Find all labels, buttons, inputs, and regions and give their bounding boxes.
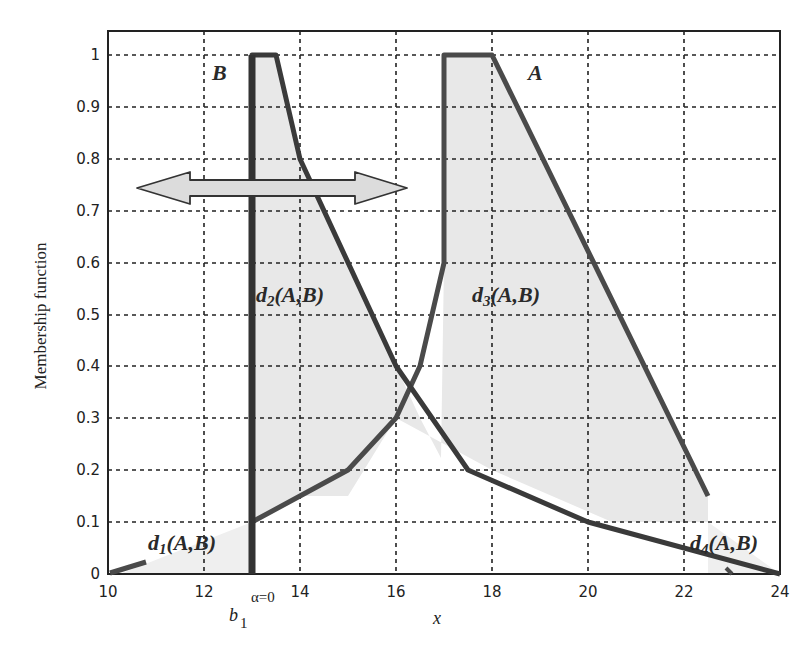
shaded-area xyxy=(120,55,780,574)
svg-text:d1(A,B): d1(A,B) xyxy=(148,530,216,557)
x-axis-ticks: 10 12 14 16 18 20 22 24 xyxy=(98,583,789,601)
svg-text:0.1: 0.1 xyxy=(76,513,100,531)
svg-text:0.8: 0.8 xyxy=(76,150,100,168)
y-axis-label: Membership function xyxy=(31,242,50,389)
y-axis-ticks: 0 0.1 0.2 0.3 0.4 0.5 0.6 0.7 0.8 0.9 1 xyxy=(76,46,100,583)
svg-text:16: 16 xyxy=(386,583,405,601)
curve-b-label: B xyxy=(211,60,227,85)
svg-text:14: 14 xyxy=(290,583,309,601)
svg-text:1: 1 xyxy=(240,615,248,631)
svg-text:20: 20 xyxy=(578,583,597,601)
svg-text:0.9: 0.9 xyxy=(76,98,100,116)
svg-text:12: 12 xyxy=(194,583,213,601)
d1-label: d1(A,B) xyxy=(148,530,216,557)
d4-label: d4(A,B) xyxy=(690,530,758,557)
svg-text:0.5: 0.5 xyxy=(76,306,100,324)
svg-text:18: 18 xyxy=(482,583,501,601)
svg-text:d4(A,B): d4(A,B) xyxy=(690,530,758,557)
b1-alpha-label: b 1 α=0 xyxy=(229,589,275,631)
svg-text:0.2: 0.2 xyxy=(76,461,100,479)
svg-text:22: 22 xyxy=(674,583,693,601)
svg-text:0.4: 0.4 xyxy=(76,357,100,375)
svg-text:1: 1 xyxy=(90,46,100,64)
svg-text:α=0: α=0 xyxy=(251,589,275,605)
membership-chart: 0 0.1 0.2 0.3 0.4 0.5 0.6 0.7 0.8 0.9 1 … xyxy=(0,0,811,657)
svg-text:b: b xyxy=(229,605,238,625)
svg-text:10: 10 xyxy=(98,583,117,601)
svg-text:0.3: 0.3 xyxy=(76,409,100,427)
svg-text:0.6: 0.6 xyxy=(76,254,100,272)
curve-a-label: A xyxy=(526,60,543,85)
svg-text:d3(A,B): d3(A,B) xyxy=(472,282,540,309)
d3-label: d3(A,B) xyxy=(472,282,540,309)
d2-label: d2(A,B) xyxy=(256,282,324,309)
svg-text:24: 24 xyxy=(770,583,789,601)
svg-text:0.7: 0.7 xyxy=(76,202,100,220)
svg-text:0: 0 xyxy=(90,565,100,583)
x-axis-label: x xyxy=(432,608,441,628)
svg-text:d2(A,B): d2(A,B) xyxy=(256,282,324,309)
